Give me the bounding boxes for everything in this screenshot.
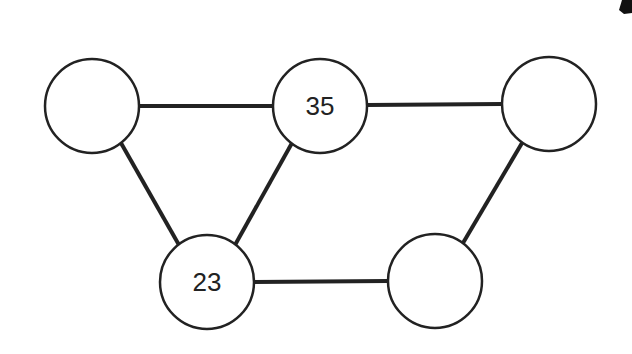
- edge-n3-n5: [463, 143, 522, 243]
- edge-n1-n4: [121, 143, 179, 245]
- node-n3: [502, 57, 596, 151]
- star-fragment-icon: [619, 0, 632, 14]
- node-n2: 35: [273, 59, 367, 153]
- graph-diagram: 35 23: [0, 0, 632, 354]
- edge-n2-n3: [367, 104, 502, 105]
- node-label: 35: [306, 91, 335, 121]
- node-label: 23: [193, 267, 222, 297]
- node-n5: [388, 234, 482, 328]
- edge-n4-n5: [254, 281, 388, 282]
- nodes: 35 23: [45, 57, 596, 329]
- node-n4: 23: [160, 235, 254, 329]
- edge-n2-n4: [235, 143, 292, 245]
- node-n1: [45, 59, 139, 153]
